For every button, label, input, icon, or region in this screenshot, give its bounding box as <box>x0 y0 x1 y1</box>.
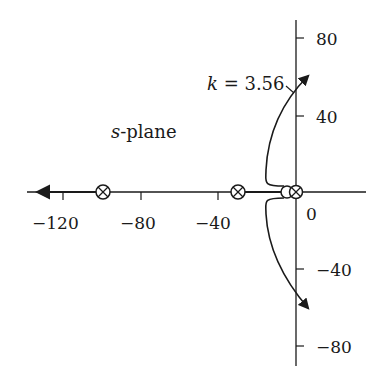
y-tick-label: −40 <box>316 260 352 280</box>
plane-variable: s <box>111 121 120 142</box>
plane-label: s-plane <box>111 121 177 142</box>
locus-lower-branch <box>266 198 308 308</box>
pole-marker <box>290 186 303 199</box>
pole-marker <box>96 185 110 199</box>
x-tick-label: −120 <box>32 213 79 233</box>
y-tick-label: −80 <box>316 337 352 357</box>
gain-pointer-line <box>286 86 294 93</box>
pole-marker <box>231 185 245 199</box>
root-locus-figure: −120 −80 −40 0 80 40 −40 −80 k = 3.56 s-… <box>0 0 383 386</box>
plane-label-rest: -plane <box>120 121 176 142</box>
y-tick-label: 40 <box>316 107 338 127</box>
gain-variable: k <box>207 73 218 94</box>
gain-value: = 3.56 <box>218 73 285 94</box>
y-tick-label: 80 <box>316 29 338 49</box>
x-tick-label: −80 <box>120 213 156 233</box>
x-tick-label: −40 <box>195 213 231 233</box>
root-locus-plot: −120 −80 −40 0 80 40 −40 −80 k = 3.56 s-… <box>0 0 383 386</box>
x-tick-label: 0 <box>306 204 317 224</box>
gain-annotation: k = 3.56 <box>207 73 285 94</box>
x-ticks <box>63 192 218 200</box>
